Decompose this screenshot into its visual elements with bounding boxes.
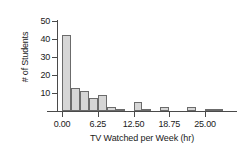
histogram-bar bbox=[205, 109, 214, 111]
plot-area: # of Students 1020304050 0.006.2512.5018… bbox=[0, 0, 249, 155]
y-tick-label: 30 bbox=[28, 53, 50, 62]
histogram-bar bbox=[71, 88, 80, 111]
x-tick-label: 18.75 bbox=[149, 119, 189, 129]
histogram-bar bbox=[98, 95, 107, 111]
histogram-bar bbox=[214, 109, 223, 111]
x-tick-mark bbox=[62, 112, 63, 117]
y-tick-label: 50 bbox=[28, 17, 50, 26]
histogram-bar bbox=[116, 109, 125, 111]
y-tick-label: 20 bbox=[28, 71, 50, 80]
y-tick-mark bbox=[52, 21, 58, 22]
x-tick-label: 12.50 bbox=[114, 119, 154, 129]
x-axis-title: TV Watched per Week (hr) bbox=[47, 133, 237, 144]
x-tick-mark bbox=[134, 112, 135, 117]
histogram-bar bbox=[134, 102, 143, 111]
x-tick-mark bbox=[169, 112, 170, 117]
x-tick-mark bbox=[98, 112, 99, 117]
histogram-bar bbox=[62, 35, 71, 111]
y-tick-label: 40 bbox=[28, 35, 50, 44]
x-tick-label: 25.00 bbox=[185, 119, 225, 129]
y-tick-mark bbox=[52, 57, 58, 58]
x-tick-mark bbox=[205, 112, 206, 117]
histogram-bar bbox=[89, 98, 98, 111]
histogram-bar bbox=[160, 107, 169, 111]
y-tick-label: 10 bbox=[28, 89, 50, 98]
histogram-bar bbox=[107, 107, 116, 111]
y-tick-mark bbox=[52, 75, 58, 76]
histogram-bar bbox=[187, 107, 196, 111]
x-tick-label: 6.25 bbox=[78, 119, 118, 129]
histogram-figure: # of Students 1020304050 0.006.2512.5018… bbox=[0, 0, 249, 155]
x-tick-label: 0.00 bbox=[42, 119, 82, 129]
y-tick-mark bbox=[52, 93, 58, 94]
y-tick-mark bbox=[52, 39, 58, 40]
histogram-bar bbox=[80, 91, 89, 111]
histogram-bar bbox=[142, 109, 151, 111]
y-axis-line bbox=[57, 20, 58, 112]
